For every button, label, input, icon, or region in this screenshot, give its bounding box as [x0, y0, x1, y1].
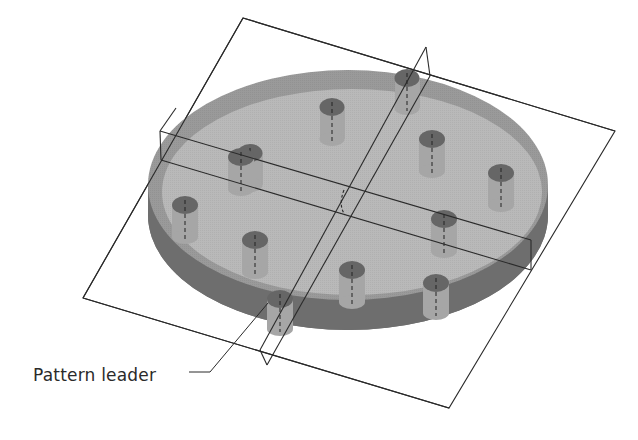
pattern-leader-label: Pattern leader [33, 365, 156, 385]
peg [339, 261, 365, 309]
peg [488, 164, 514, 212]
peg [395, 69, 421, 115]
peg [242, 231, 268, 279]
peg [419, 130, 445, 178]
peg [320, 98, 346, 146]
peg [172, 196, 198, 244]
peg [423, 274, 449, 320]
